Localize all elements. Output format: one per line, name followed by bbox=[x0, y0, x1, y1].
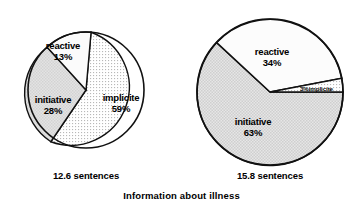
right-pie-label-reactive: reactive 34% bbox=[243, 47, 301, 68]
right-pie-group bbox=[197, 19, 343, 165]
right-pie-label-initiative: initiative 63% bbox=[222, 117, 284, 138]
right-initiative-name: initiative bbox=[222, 117, 284, 128]
left-reactive-value: 13% bbox=[36, 52, 90, 63]
pie-chart-figure: reactive 13% initiative 28% implicite 59… bbox=[0, 0, 363, 209]
left-reactive-name: reactive bbox=[36, 41, 90, 52]
left-pie-footer: 12.6 sentences bbox=[28, 170, 144, 181]
right-pie-label-implicite: 3%implicite bbox=[300, 85, 333, 92]
left-initiative-value: 28% bbox=[22, 106, 84, 117]
left-pie-label-reactive: reactive 13% bbox=[36, 41, 90, 62]
left-initiative-name: initiative bbox=[22, 95, 84, 106]
left-pie-label-initiative: initiative 28% bbox=[22, 95, 84, 116]
right-reactive-name: reactive bbox=[243, 47, 301, 58]
right-reactive-value: 34% bbox=[243, 58, 301, 69]
figure-caption: Information about illness bbox=[0, 190, 363, 202]
left-implicite-name: implicite bbox=[92, 93, 150, 104]
left-implicite-value: 59% bbox=[92, 104, 150, 115]
left-pie-label-implicite: implicite 59% bbox=[92, 93, 150, 114]
right-initiative-value: 63% bbox=[222, 128, 284, 139]
right-pie-footer: 15.8 sentences bbox=[212, 170, 328, 181]
